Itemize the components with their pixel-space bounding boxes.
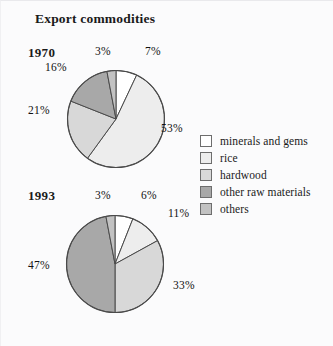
pie-1970-label-minerals: 7% — [145, 45, 161, 57]
pie-1993-label-rice: 11% — [168, 207, 189, 219]
pie-slice-minerals-and-gems — [115, 216, 133, 265]
pie-1970-label-others: 3% — [95, 45, 111, 57]
pie-outline — [67, 216, 164, 313]
chart-year-label-1993: 1993 — [28, 188, 55, 204]
pie-outline — [68, 71, 165, 168]
pie-slice-rice — [115, 219, 158, 264]
legend-item-minerals-and-gems: minerals and gems — [200, 132, 311, 149]
pie-1993-label-others: 3% — [95, 189, 111, 201]
chart-year-label-1970: 1970 — [28, 45, 55, 61]
legend: minerals and gems rice hardwood other ra… — [200, 132, 311, 218]
legend-item-other-raw-materials: other raw materials — [200, 184, 311, 201]
legend-swatch-icon-others — [200, 203, 212, 215]
pie-slice-other-raw-materials — [67, 216, 115, 312]
legend-swatch-icon-rice — [200, 152, 212, 164]
pie-slice-hardwood — [115, 241, 164, 313]
pie-slice-others — [106, 216, 115, 265]
legend-swatch-icon-other-raw-materials — [200, 186, 212, 198]
pie-slice-other-raw-materials — [71, 71, 116, 119]
legend-item-others: others — [200, 201, 311, 218]
pie-1993 — [67, 216, 164, 313]
pie-1993-label-other-raw: 47% — [28, 259, 50, 271]
pie-1970 — [68, 71, 165, 168]
pie-slice-rice — [87, 75, 164, 167]
pie-1970-label-other-raw: 16% — [45, 61, 67, 73]
legend-label-others: others — [220, 203, 249, 215]
pie-1970-label-hardwood: 21% — [28, 104, 50, 116]
page-title: Export commodities — [35, 11, 155, 27]
pie-slice-others — [107, 71, 116, 120]
legend-item-rice: rice — [200, 149, 311, 166]
legend-item-hardwood: hardwood — [200, 166, 311, 183]
legend-label-minerals-and-gems: minerals and gems — [220, 135, 308, 147]
legend-swatch-icon-minerals-and-gems — [200, 135, 212, 147]
pie-slice-hardwood — [68, 101, 116, 158]
legend-label-other-raw-materials: other raw materials — [220, 186, 311, 198]
legend-label-hardwood: hardwood — [220, 169, 267, 181]
export-commodities-figure: Export commodities 1970 1993 7% 53% 21% … — [0, 0, 333, 346]
legend-label-rice: rice — [220, 152, 238, 164]
legend-swatch-icon-hardwood — [200, 169, 212, 181]
pie-1993-label-minerals: 6% — [141, 189, 157, 201]
pie-1970-label-rice: 53% — [161, 122, 183, 134]
pie-slice-minerals-and-gems — [116, 71, 137, 120]
pie-1993-label-hardwood: 33% — [173, 279, 195, 291]
